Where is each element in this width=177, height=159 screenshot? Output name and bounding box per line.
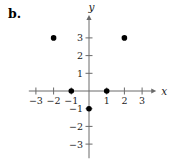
- figure-label: b.: [8, 8, 21, 21]
- y-tick-label: −1: [69, 103, 83, 114]
- x-tick-label: 1: [104, 95, 110, 106]
- figure-panel: b. −3−2−1123−3−2−1123xy: [0, 0, 177, 159]
- x-tick-label: −3: [29, 95, 43, 106]
- data-point: [51, 35, 57, 41]
- y-axis-label: y: [88, 1, 96, 13]
- x-tick-label: 3: [139, 95, 145, 106]
- y-axis-arrow: [86, 15, 91, 20]
- data-point: [122, 35, 128, 41]
- y-tick-label: 1: [77, 68, 83, 79]
- y-tick-label: −3: [69, 139, 83, 150]
- data-point: [86, 106, 92, 112]
- x-tick-label: −2: [47, 95, 61, 106]
- y-tick-label: 2: [77, 50, 83, 61]
- x-axis-label: x: [161, 85, 167, 97]
- y-tick-label: 3: [77, 32, 83, 43]
- y-tick-label: −2: [69, 121, 83, 132]
- x-tick-label: 2: [121, 95, 127, 106]
- coordinate-plane: −3−2−1123−3−2−1123xy: [0, 0, 177, 159]
- data-point: [104, 88, 110, 94]
- data-point: [69, 88, 75, 94]
- x-axis-arrow: [151, 88, 156, 93]
